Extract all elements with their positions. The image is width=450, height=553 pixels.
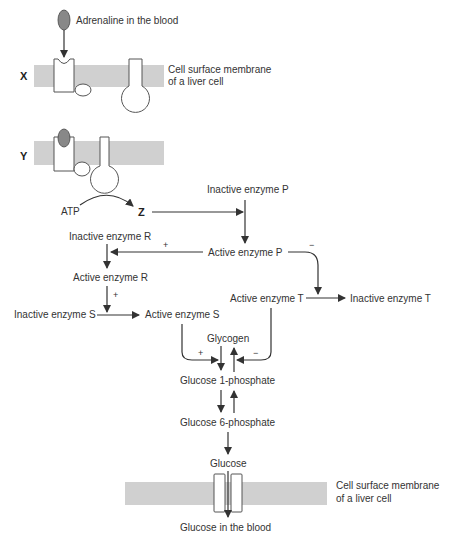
adrenaline-signalling-diagram: Adrenaline in the blood X Cell surface m… xyxy=(0,0,450,553)
active-enzyme-t: Active enzyme T xyxy=(230,293,304,304)
inactive-enzyme-s: Inactive enzyme S xyxy=(14,309,96,320)
active-enzyme-s: Active enzyme S xyxy=(145,309,220,320)
sign-t-to-glycogen: − xyxy=(253,348,258,358)
glucose-1-phosphate-label: Glucose 1-phosphate xyxy=(180,375,276,386)
adrenaline-molecule-icon xyxy=(58,10,70,30)
membrane-bottom xyxy=(125,482,327,505)
bound-adrenaline-icon xyxy=(58,129,70,147)
inactive-enzyme-t: Inactive enzyme T xyxy=(350,293,431,304)
sign-r-to-s: + xyxy=(113,290,118,300)
g-protein-x-icon xyxy=(75,84,91,96)
label-x: X xyxy=(20,70,28,82)
label-y: Y xyxy=(20,150,28,162)
sign-s-to-glycogen: + xyxy=(198,348,203,358)
adrenaline-label: Adrenaline in the blood xyxy=(76,15,178,26)
inactive-enzyme-p: Inactive enzyme P xyxy=(207,184,289,195)
p-to-t-arrow xyxy=(288,252,318,294)
active-enzyme-r: Active enzyme R xyxy=(73,272,148,283)
glucose-label: Glucose xyxy=(210,458,247,469)
inactive-enzyme-r: Inactive enzyme R xyxy=(69,231,151,242)
glucose-6-phosphate-label: Glucose 6-phosphate xyxy=(180,417,276,428)
label-z: Z xyxy=(138,206,145,218)
active-enzyme-p: Active enzyme P xyxy=(208,247,283,258)
membrane-top-label-line1: Cell surface membrane xyxy=(168,64,272,75)
glucose-channel-right-icon xyxy=(231,474,242,512)
glycogen-label: Glycogen xyxy=(207,333,249,344)
sign-p-to-t: − xyxy=(309,240,314,250)
sign-p-to-r: + xyxy=(163,240,168,250)
g-protein-y-icon xyxy=(74,162,90,176)
glucose-channel-left-icon xyxy=(214,474,225,512)
membrane-bottom-label-line1: Cell surface membrane xyxy=(336,480,440,491)
atp-to-z-arrow xyxy=(80,195,133,206)
membrane-top-label-line2: of a liver cell xyxy=(168,76,224,87)
receptor-x-icon xyxy=(54,59,74,92)
membrane-bottom-label-line2: of a liver cell xyxy=(336,493,392,504)
glucose-in-blood-label: Glucose in the blood xyxy=(180,522,271,533)
atp-label: ATP xyxy=(61,206,80,217)
